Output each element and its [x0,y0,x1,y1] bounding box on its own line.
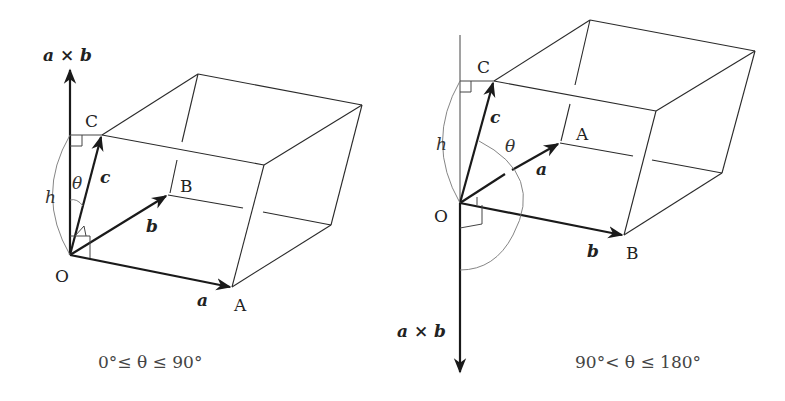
parallelepiped-figure: a × b C B A O c b a θ h 0°≤ θ ≤ 90° [0,0,785,401]
right-point-B-label: B [626,243,639,263]
left-cross-product-label: a × b [43,45,92,65]
left-vector-b-label: b [146,216,158,236]
left-caption: 0°≤ θ ≤ 90° [98,352,202,372]
left-theta-arc [70,200,83,206]
right-vector-b-label: b [587,241,599,261]
left-point-O-label: O [55,266,69,286]
right-caption: 90°< θ ≤ 180° [575,352,701,372]
right-theta-label: θ [505,136,515,156]
left-diagram: a × b C B A O c b a θ h 0°≤ θ ≤ 90° [43,45,362,372]
right-vector-a-label: a [536,159,547,179]
right-point-A-label: A [575,124,589,144]
right-point-C-label: C [477,57,490,77]
left-vector-a-label: a [197,290,208,310]
right-h-label: h [436,134,447,154]
left-vector-c-arrow [70,137,101,255]
right-point-O-label: O [434,206,448,226]
left-vector-a-arrow [70,255,230,287]
left-point-B-label: B [180,176,193,196]
right-right-angle-mark-top [460,81,471,92]
right-vector-b-arrow [460,203,622,235]
left-right-angle-mark-top [70,135,82,146]
right-vector-c-label: c [490,107,501,127]
left-point-A-label: A [233,295,247,315]
left-theta-label: θ [72,173,82,193]
left-vector-c-label: c [100,167,111,187]
right-parallelepiped-edges [494,20,755,235]
right-diagram: a × b C A B O c a b θ h 90°< θ ≤ 180° [397,20,755,372]
right-right-angle-mark-base [460,205,482,228]
left-h-label: h [45,187,56,207]
right-cross-product-label: a × b [397,321,446,341]
left-parallelepiped-edges [102,74,362,287]
right-vector-a-arrow [512,144,558,170]
left-point-C-label: C [85,111,98,131]
